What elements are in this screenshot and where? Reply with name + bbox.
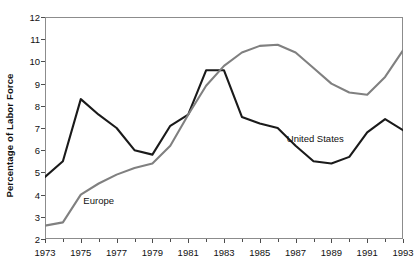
x-tick-label: 1991: [357, 247, 378, 258]
y-tick-label: 3: [35, 211, 40, 222]
y-tick-mark: [41, 17, 45, 18]
y-tick-mark: [41, 172, 45, 173]
x-tick-mark-minor: [314, 239, 315, 242]
unemployment-line-chart: Percentage of Labor Force 23456789101112…: [0, 0, 420, 271]
x-tick-mark-minor: [206, 239, 207, 242]
series-label-europe: Europe: [83, 195, 114, 206]
y-tick-label: 12: [29, 12, 40, 23]
x-tick-mark-minor: [170, 239, 171, 242]
x-tick-label: 1983: [213, 247, 234, 258]
y-tick-label: 7: [35, 123, 40, 134]
y-tick-label: 10: [29, 56, 40, 67]
y-tick-mark: [41, 84, 45, 85]
x-tick-mark-minor: [99, 239, 100, 242]
y-tick-label: 9: [35, 78, 40, 89]
series-line-united-states: [45, 70, 403, 177]
y-tick-label: 11: [30, 34, 40, 45]
x-tick-mark: [117, 239, 118, 243]
plot-area: 23456789101112 1973197519771979198119831…: [45, 17, 403, 239]
y-tick-label: 2: [35, 234, 40, 245]
x-tick-label: 1977: [106, 247, 127, 258]
x-tick-label: 1987: [285, 247, 306, 258]
y-tick-mark: [41, 150, 45, 151]
x-tick-label: 1981: [178, 247, 199, 258]
x-tick-mark-minor: [278, 239, 279, 242]
y-tick-mark: [41, 217, 45, 218]
x-tick-label: 1975: [70, 247, 91, 258]
y-tick-mark: [41, 106, 45, 107]
x-tick-mark: [45, 239, 46, 243]
y-tick-label: 6: [35, 145, 40, 156]
y-tick-mark: [41, 195, 45, 196]
x-tick-mark-minor: [63, 239, 64, 242]
x-tick-mark: [224, 239, 225, 243]
x-tick-mark: [188, 239, 189, 243]
y-tick-label: 4: [35, 189, 40, 200]
x-tick-label: 1993: [392, 247, 413, 258]
x-tick-label: 1985: [249, 247, 270, 258]
x-tick-mark: [367, 239, 368, 243]
x-tick-mark: [260, 239, 261, 243]
y-tick-mark: [41, 39, 45, 40]
x-tick-mark: [296, 239, 297, 243]
y-tick-label: 8: [35, 100, 40, 111]
x-tick-mark: [331, 239, 332, 243]
x-tick-mark-minor: [135, 239, 136, 242]
x-tick-mark-minor: [385, 239, 386, 242]
x-tick-mark: [81, 239, 82, 243]
series-label-united-states: United States: [287, 133, 344, 144]
x-tick-label: 1979: [142, 247, 163, 258]
y-tick-label: 5: [35, 167, 40, 178]
x-tick-label: 1989: [321, 247, 342, 258]
y-tick-mark: [41, 128, 45, 129]
x-tick-mark-minor: [349, 239, 350, 242]
x-tick-label: 1973: [34, 247, 55, 258]
y-tick-mark: [41, 61, 45, 62]
plot-svg: [45, 17, 403, 239]
x-tick-mark: [403, 239, 404, 243]
x-tick-mark: [152, 239, 153, 243]
y-axis-title: Percentage of Labor Force: [0, 0, 18, 271]
x-tick-mark-minor: [242, 239, 243, 242]
